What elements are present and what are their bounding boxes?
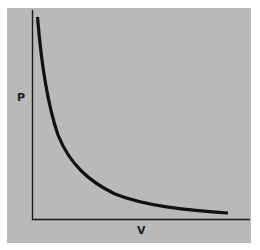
y-axis-label: P — [17, 91, 25, 104]
chart-svg — [0, 0, 260, 250]
x-axis-label: V — [137, 224, 146, 237]
pv-curve — [38, 17, 229, 213]
